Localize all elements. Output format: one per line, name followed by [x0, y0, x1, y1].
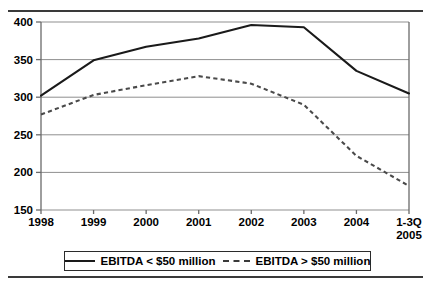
line-chart-svg: 150200250300350400 199819992000200120022…	[0, 0, 431, 284]
x-axis-tick-labels: 19981999200020012002200320041-3Q2005	[28, 216, 422, 241]
svg-text:1-3Q: 1-3Q	[396, 216, 422, 228]
svg-text:2004: 2004	[344, 216, 370, 228]
data-series-group	[41, 25, 409, 186]
svg-text:2001: 2001	[186, 216, 212, 228]
svg-text:250: 250	[14, 129, 33, 141]
svg-text:300: 300	[14, 91, 33, 103]
svg-text:1998: 1998	[28, 216, 54, 228]
plot-container: 150200250300350400 199819992000200120022…	[0, 0, 431, 284]
legend-swatch-dashed-line-icon	[223, 260, 250, 262]
chart-figure: 150200250300350400 199819992000200120022…	[0, 0, 431, 284]
svg-text:2002: 2002	[238, 216, 264, 228]
chart-legend: EBITDA < $50 million EBITDA > $50 millio…	[64, 251, 371, 271]
series-line-0	[41, 25, 409, 96]
legend-item-1: EBITDA > $50 million	[223, 255, 371, 267]
svg-text:200: 200	[14, 166, 33, 178]
plot-frame	[41, 22, 409, 210]
series-line-1	[41, 76, 409, 186]
svg-text:400: 400	[14, 16, 33, 28]
legend-label-1: EBITDA > $50 million	[256, 255, 371, 267]
y-axis-tick-labels: 150200250300350400	[14, 16, 41, 216]
svg-text:2003: 2003	[291, 216, 317, 228]
legend-item-0: EBITDA < $50 million	[65, 255, 216, 267]
svg-text:150: 150	[14, 204, 33, 216]
legend-swatch-solid-line-icon	[65, 260, 95, 262]
legend-label-0: EBITDA < $50 million	[101, 255, 216, 267]
x-axis-ticks	[41, 210, 409, 214]
svg-text:350: 350	[14, 54, 33, 66]
gridlines-group	[41, 22, 409, 210]
svg-text:2005: 2005	[396, 229, 422, 241]
svg-text:1999: 1999	[81, 216, 107, 228]
svg-text:2000: 2000	[133, 216, 159, 228]
